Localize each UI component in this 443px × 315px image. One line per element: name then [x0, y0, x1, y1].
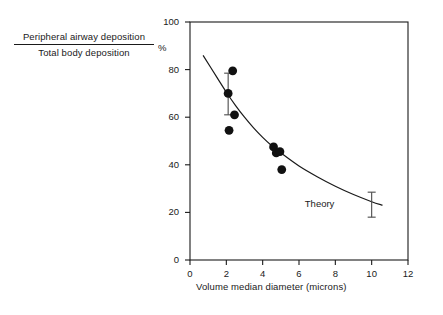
data-points [224, 66, 286, 174]
y-tick-label: 60 [153, 111, 179, 122]
y-tick-label: 100 [153, 16, 179, 27]
data-point [224, 89, 233, 98]
data-point [225, 126, 234, 135]
theory-annotation-label: Theory [305, 198, 335, 209]
x-tick-label: 0 [180, 268, 200, 279]
x-tick-label: 12 [398, 268, 418, 279]
axis-ticks [185, 22, 408, 265]
chart-figure: Peripheral airway deposition Total body … [0, 0, 443, 315]
x-tick-label: 2 [216, 268, 236, 279]
x-tick-label: 6 [289, 268, 309, 279]
y-tick-label: 20 [153, 206, 179, 217]
error-bars [224, 73, 376, 217]
y-tick-label: 80 [153, 64, 179, 75]
data-point [228, 66, 237, 75]
data-point [230, 110, 239, 119]
axes-frame [190, 22, 408, 260]
data-point [277, 165, 286, 174]
y-tick-label: 0 [153, 254, 179, 265]
x-tick-label: 4 [253, 268, 273, 279]
data-point [276, 147, 285, 156]
y-tick-label: 40 [153, 159, 179, 170]
x-tick-label: 8 [325, 268, 345, 279]
x-tick-label: 10 [362, 268, 382, 279]
